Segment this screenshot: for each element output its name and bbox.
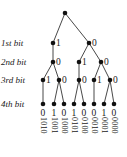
- codeword-1000: 1000: [60, 117, 68, 134]
- bit-label-c001: 1: [97, 75, 102, 85]
- tree-edge: [104, 80, 110, 104]
- bit-label-c010: 0: [82, 75, 87, 85]
- level-label-4th-bit: 4th bit: [1, 99, 24, 109]
- binary-tree-diagram: 1st bit 2nd bit 3rd bit 4th bit 10010100…: [0, 0, 127, 157]
- tree-node-b10: [51, 60, 56, 65]
- tree-node-c101: [41, 78, 46, 83]
- level-label-2nd-bit: 2nd bit: [1, 57, 26, 67]
- tree-node-a0: [87, 41, 92, 46]
- tree-edge: [54, 80, 59, 104]
- tree-node-d1010: [41, 102, 46, 107]
- tree-node-d1000: [62, 102, 67, 107]
- tree-node-c000: [108, 78, 113, 83]
- tree-node-c010: [77, 78, 82, 83]
- level-label-3rd-bit: 3rd bit: [1, 75, 25, 85]
- bit-label-a1: 1: [56, 38, 61, 48]
- bit-label-c000: 0: [113, 75, 118, 85]
- tree-node-d1001: [52, 102, 57, 107]
- codeword-0100: 0100: [80, 117, 88, 134]
- bit-label-b01: 1: [82, 57, 87, 67]
- bit-label-c100: 0: [62, 75, 67, 85]
- tree-node-d0000: [112, 102, 117, 107]
- codeword-1001: 1001: [50, 117, 58, 134]
- tree-node-b01: [77, 60, 82, 65]
- tree-node-d0100: [82, 102, 87, 107]
- codeword-0000: 0000: [110, 117, 118, 134]
- codeword-0010: 0010: [90, 117, 98, 134]
- tree-node-d0010: [92, 102, 97, 107]
- bit-label-a0: 0: [92, 38, 97, 48]
- tree-node-b00: [99, 60, 104, 65]
- bit-label-b00: 0: [104, 57, 109, 67]
- codeword-0001: 0001: [100, 117, 108, 134]
- tree-node-root: [63, 11, 68, 16]
- bit-label-b10: 0: [56, 57, 61, 67]
- tree-node-d0101: [72, 102, 77, 107]
- tree-node-c001: [92, 78, 97, 83]
- tree-edge: [65, 13, 89, 43]
- tree-node-c100: [57, 78, 62, 83]
- level-label-1st-bit: 1st bit: [1, 38, 23, 48]
- bit-label-c101: 1: [46, 75, 51, 85]
- tree-edge: [74, 80, 79, 104]
- tree-node-a1: [51, 41, 56, 46]
- codeword-1010: 1010: [39, 117, 47, 134]
- codeword-0101: 0101: [70, 117, 78, 134]
- tree-node-d0001: [102, 102, 107, 107]
